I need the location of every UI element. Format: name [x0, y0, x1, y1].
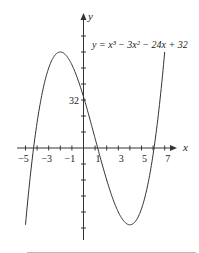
x-tick-label: −3	[41, 153, 52, 164]
x-tick-label: −1	[65, 153, 76, 164]
x-axis-arrow-icon	[170, 145, 177, 151]
x-tick-label: 7	[165, 153, 170, 164]
x-tick-label: 3	[119, 153, 124, 164]
x-tick-label: −5	[18, 153, 29, 164]
equation-label: y = x³ − 3x² − 24x + 32	[91, 39, 188, 50]
chart: −5−3−11357 x y 32 y = x³ − 3x² − 24x + 3…	[0, 0, 199, 253]
cubic-curve	[26, 52, 165, 225]
y-axis-arrow-icon	[81, 13, 87, 20]
x-axis-label: x	[182, 141, 188, 153]
y-tick-label-32: 32	[69, 95, 79, 106]
x-tick-label: 5	[142, 153, 147, 164]
y-axis-label: y	[87, 10, 93, 22]
